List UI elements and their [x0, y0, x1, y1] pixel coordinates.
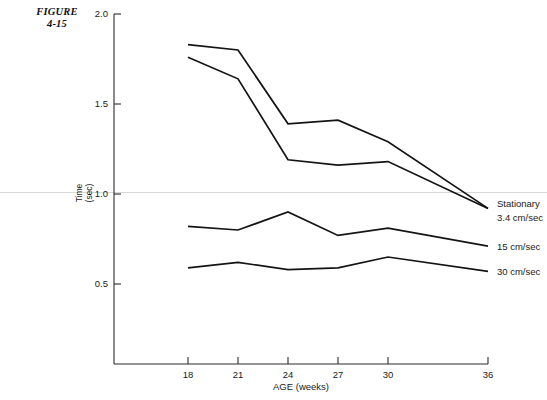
series-line-3-4-cm-sec — [188, 57, 488, 208]
figure-root: FIGURE 4-15 2.01.51.00.5 182124273036 St… — [0, 0, 547, 400]
series-line-30-cm-sec — [188, 257, 488, 271]
x-tick-label: 18 — [183, 369, 194, 380]
legend-label-30-cm-sec: 30 cm/sec — [497, 266, 541, 277]
legend-label-15-cm-sec: 15 cm/sec — [497, 241, 541, 252]
y-axis-title: Time (sec) — [74, 183, 94, 202]
series-group — [188, 45, 488, 272]
x-tick-label: 36 — [483, 369, 494, 380]
x-axis-ticks: 182124273036 — [183, 357, 494, 380]
y-tick-label: 1.0 — [95, 188, 108, 199]
legend-group: Stationary3.4 cm/sec15 cm/sec30 cm/sec — [497, 198, 543, 276]
x-tick-label: 24 — [283, 369, 294, 380]
y-axis-ticks: 2.01.51.00.5 — [95, 8, 121, 289]
y-tick-label: 0.5 — [95, 278, 108, 289]
x-tick-label: 27 — [333, 369, 344, 380]
x-tick-label: 30 — [383, 369, 394, 380]
y-axis-title-line-1: Time — [74, 183, 84, 202]
y-tick-label: 2.0 — [95, 8, 108, 19]
y-tick-label: 1.5 — [95, 98, 108, 109]
axes-frame — [114, 14, 488, 364]
x-axis-title: AGE (weeks) — [273, 381, 329, 392]
legend-label-3-4-cm-sec: 3.4 cm/sec — [497, 212, 543, 223]
series-line-15-cm-sec — [188, 212, 488, 246]
x-tick-label: 21 — [233, 369, 244, 380]
legend-label-stationary: Stationary — [497, 198, 540, 209]
line-chart: 2.01.51.00.5 182124273036 Stationary3.4 … — [0, 0, 547, 400]
series-line-stationary — [188, 45, 488, 209]
y-axis-title-line-2: (sec) — [84, 183, 94, 202]
